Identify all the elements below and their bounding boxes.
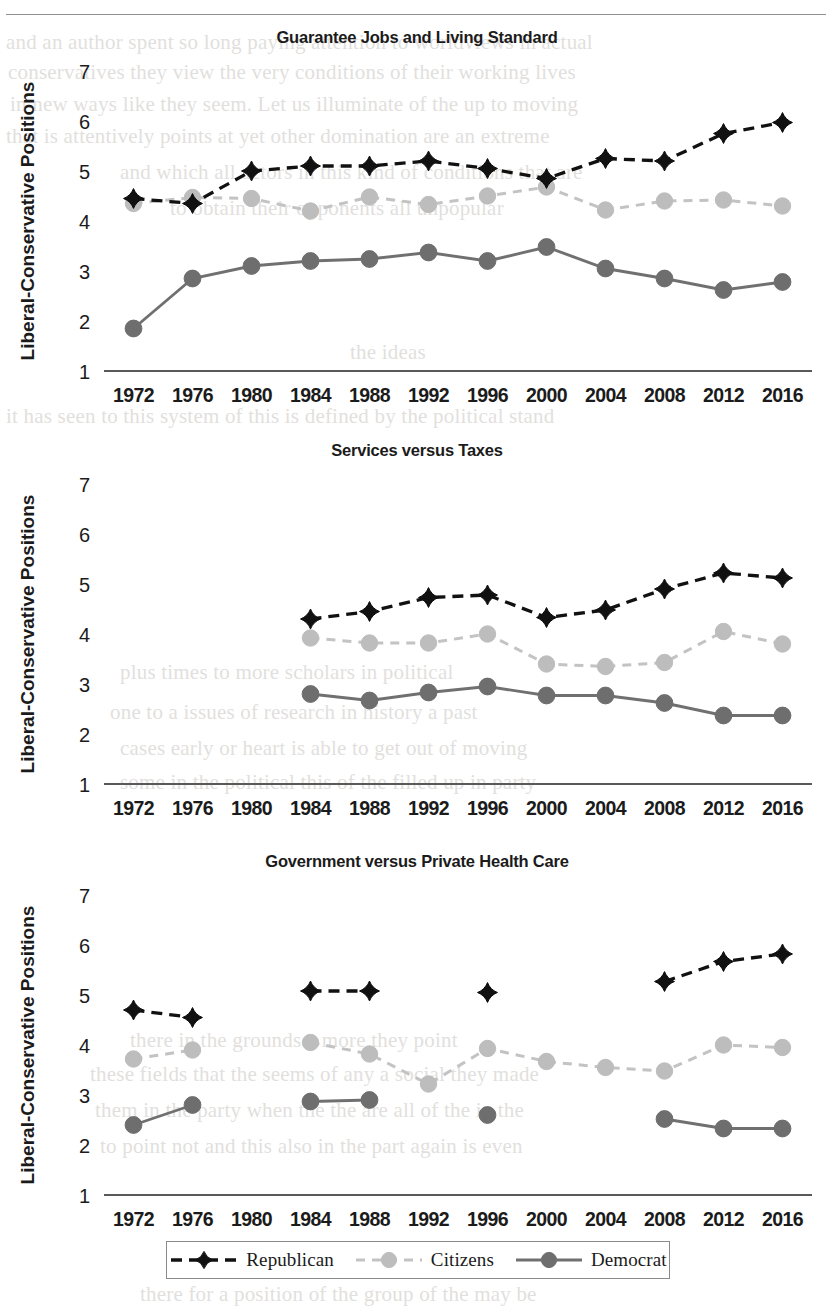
data-point-circle (361, 251, 378, 268)
legend-item-democrat: Democrat (514, 1249, 667, 1271)
series-democrat (302, 678, 791, 724)
data-point-diamond (655, 579, 675, 599)
data-point-circle (597, 202, 613, 218)
data-point-circle (715, 1120, 732, 1137)
x-axis-tick-label: 2008 (644, 797, 686, 819)
y-axis-tick-label: 7 (79, 474, 90, 496)
data-point-diamond (714, 952, 734, 972)
data-point-circle (302, 203, 318, 219)
x-axis-tick-label: 1972 (113, 1208, 155, 1230)
data-point-diamond (714, 563, 734, 583)
data-point-diamond (301, 981, 321, 1001)
data-point-diamond (301, 609, 321, 629)
series-line (134, 123, 783, 204)
x-axis-tick-label: 1984 (290, 797, 332, 819)
data-point-circle (479, 626, 495, 642)
x-axis-tick-label: 2008 (644, 1208, 686, 1230)
y-axis-tick-label: 6 (79, 111, 90, 133)
x-axis-tick-label: 1976 (172, 1208, 214, 1230)
series-citizens (125, 1034, 790, 1092)
ghost-text-line: there for a position of the group of the… (140, 1282, 537, 1307)
legend-label: Republican (246, 1249, 334, 1271)
data-point-circle (656, 1063, 672, 1079)
data-point-circle (302, 1093, 319, 1110)
data-point-diamond (773, 568, 793, 588)
series-republican (301, 563, 793, 629)
series-line (134, 247, 783, 329)
x-axis-tick-label: 1992 (408, 797, 450, 819)
series-citizens (302, 623, 790, 674)
data-point-circle (774, 274, 791, 291)
legend-swatch-diamond-icon (169, 1249, 239, 1271)
series-republican (124, 944, 793, 1027)
x-axis-tick-label: 2004 (585, 384, 627, 406)
y-axis-title: Liberal-Conservative Positions (17, 906, 38, 1185)
y-axis-tick-label: 2 (79, 724, 90, 746)
data-point-diamond (655, 151, 675, 171)
x-axis-tick-label: 1976 (172, 797, 214, 819)
plot-area-2: 7654321Liberal-Conservative Positions197… (0, 871, 834, 1256)
chart-title-1: Services versus Taxes (0, 441, 834, 460)
x-axis-tick-label: 2004 (585, 1208, 627, 1230)
chart-panel-guarantee-jobs: Guarantee Jobs and Living Standard 76543… (0, 28, 834, 432)
series-line (134, 1105, 193, 1125)
y-axis-tick-label: 1 (79, 1185, 90, 1207)
x-axis-tick-label: 2016 (762, 384, 804, 406)
data-point-circle (243, 190, 259, 206)
data-point-circle (715, 192, 731, 208)
x-axis-tick-label: 2000 (526, 797, 568, 819)
y-axis-tick-label: 6 (79, 524, 90, 546)
x-axis-tick-label: 1976 (172, 384, 214, 406)
data-point-diamond (773, 944, 793, 964)
x-axis-tick-label: 1980 (231, 1208, 273, 1230)
x-axis-tick-label: 1984 (290, 384, 332, 406)
data-point-circle (420, 1076, 436, 1092)
data-point-circle (302, 630, 318, 646)
series-democrat (125, 1092, 791, 1137)
data-point-circle (361, 635, 377, 651)
data-point-circle (538, 656, 554, 672)
x-axis-tick-label: 1980 (231, 797, 273, 819)
x-axis-tick-label: 1988 (349, 797, 391, 819)
y-axis-tick-label: 3 (79, 261, 90, 283)
data-point-circle (715, 707, 732, 724)
data-point-circle (715, 623, 731, 639)
data-point-circle (479, 678, 496, 695)
chart-title-2: Government versus Private Health Care (0, 852, 834, 871)
data-point-diamond (478, 585, 498, 605)
data-point-diamond (183, 1008, 203, 1028)
data-point-diamond (360, 156, 380, 176)
x-axis-tick-label: 2016 (762, 1208, 804, 1230)
series-line (134, 187, 783, 211)
x-axis-tick-label: 2000 (526, 384, 568, 406)
series-line (134, 1050, 193, 1059)
legend-swatch-circle-icon (354, 1249, 424, 1271)
chart-legend: RepublicanCitizensDemocrat (166, 1241, 670, 1279)
data-point-circle (361, 692, 378, 709)
data-point-diamond (242, 161, 262, 181)
x-axis-tick-label: 1988 (349, 1208, 391, 1230)
legend-item-republican: Republican (169, 1249, 334, 1271)
data-point-circle (361, 189, 377, 205)
data-point-circle (420, 196, 436, 212)
y-axis-title: Liberal-Conservative Positions (17, 495, 38, 774)
data-point-circle (361, 1092, 378, 1109)
data-point-circle (125, 1117, 142, 1134)
y-axis-tick-label: 4 (79, 211, 90, 233)
data-point-circle (243, 258, 260, 275)
legend-item-citizens: Citizens (354, 1249, 494, 1271)
chart-title-0: Guarantee Jobs and Living Standard (0, 28, 834, 47)
y-axis-tick-label: 1 (79, 361, 90, 383)
data-point-circle (597, 658, 613, 674)
chart-panel-services-versus-taxes: Services versus Taxes 7654321Liberal-Con… (0, 441, 834, 845)
data-point-circle (597, 1059, 613, 1075)
data-point-circle (184, 1097, 201, 1114)
data-point-circle (597, 687, 614, 704)
data-point-diamond (360, 602, 380, 622)
data-point-circle (774, 1039, 790, 1055)
data-point-diamond (478, 159, 498, 179)
x-axis-tick-label: 2016 (762, 797, 804, 819)
y-axis-tick-label: 7 (79, 61, 90, 83)
x-axis-tick-label: 1996 (467, 797, 509, 819)
